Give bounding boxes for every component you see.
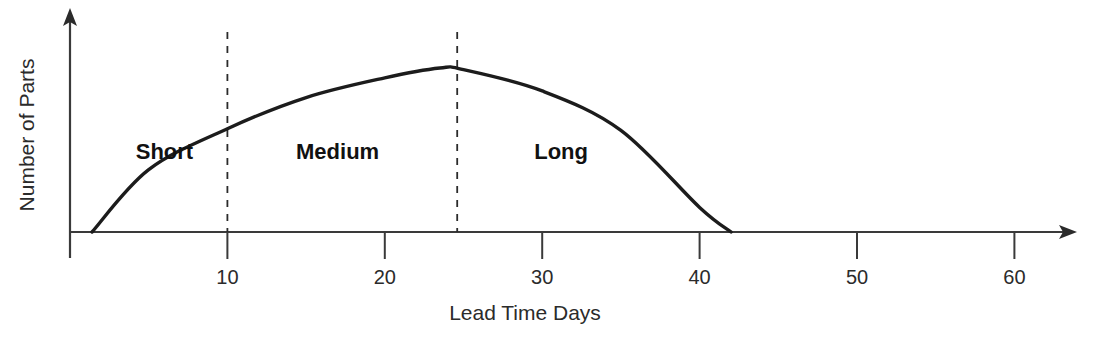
- x-axis-tick-label-60: 60: [1003, 266, 1025, 288]
- y-axis-title: Number of Parts: [15, 59, 38, 212]
- x-axis-tick-label-30: 30: [531, 266, 553, 288]
- lead-time-distribution-chart: 102030405060 ShortMediumLong Lead Time D…: [0, 0, 1110, 347]
- x-axis-tick-label-40: 40: [688, 266, 710, 288]
- x-axis-tick-label-50: 50: [846, 266, 868, 288]
- region-dividers: [227, 32, 457, 232]
- x-axis-tick-marks: [227, 232, 1014, 259]
- region-label-long: Long: [534, 139, 588, 164]
- region-label-short: Short: [136, 139, 194, 164]
- region-labels-group: ShortMediumLong: [136, 139, 588, 164]
- chart-canvas: 102030405060 ShortMediumLong Lead Time D…: [0, 0, 1110, 347]
- x-axis-tick-label-20: 20: [374, 266, 396, 288]
- x-axis-tick-label-10: 10: [216, 266, 238, 288]
- x-axis-tick-labels: 102030405060: [216, 266, 1025, 288]
- x-axis-title: Lead Time Days: [449, 301, 601, 324]
- region-label-medium: Medium: [296, 139, 379, 164]
